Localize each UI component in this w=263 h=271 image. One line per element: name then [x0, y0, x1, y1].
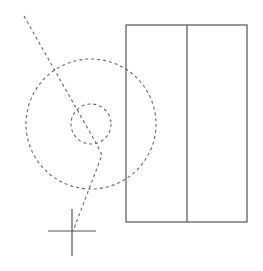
diagram-canvas	[0, 0, 263, 271]
background	[0, 0, 263, 271]
